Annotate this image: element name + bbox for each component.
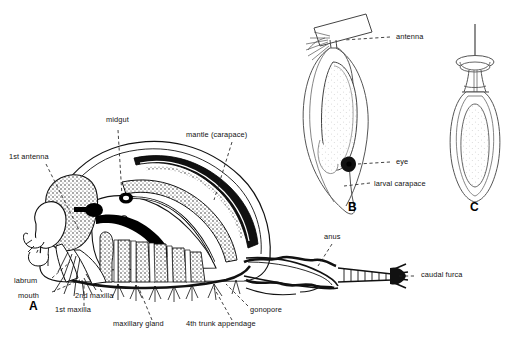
- panel-letter-c: C: [470, 200, 479, 214]
- label-anus: anus: [324, 232, 340, 241]
- label-first-antenna: 1st antenna: [9, 152, 49, 161]
- label-second-maxilla: 2nd maxilla: [75, 291, 113, 300]
- label-gonopore: gonopore: [250, 305, 282, 314]
- anatomy-figure: 1st antenna midgut mantle (carapace) lab…: [0, 0, 510, 348]
- label-first-maxilla: 1st maxilla: [55, 305, 91, 314]
- panel-letter-a: A: [29, 299, 38, 313]
- label-mantle-carapace: mantle (carapace): [186, 130, 247, 139]
- label-labrum: labrum: [14, 276, 37, 285]
- label-larval-carapace: larval carapace: [374, 179, 426, 188]
- panel-letter-b: B: [348, 200, 357, 214]
- label-maxillary-gland: maxillary gland: [113, 319, 164, 328]
- label-caudal-furca: caudal furca: [421, 270, 462, 279]
- label-antenna: antenna: [396, 32, 423, 41]
- label-midgut: midgut: [106, 115, 129, 124]
- panel-c-artwork: [450, 24, 500, 202]
- label-fourth-trunk-appendage: 4th trunk appendage: [186, 319, 256, 328]
- label-eye: eye: [396, 157, 408, 166]
